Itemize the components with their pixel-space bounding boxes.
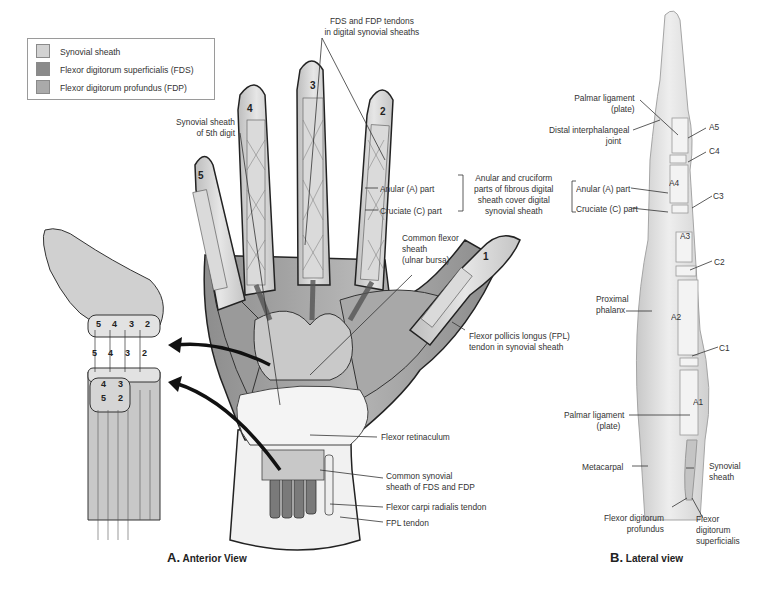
label-line: joint	[549, 135, 621, 146]
legend: Synovial sheath Flexor digitorum superfi…	[27, 38, 215, 100]
label-metacarpal: Metacarpal	[582, 461, 623, 472]
label-line: of 5th digit	[175, 127, 235, 138]
pulley-c4: C4	[709, 145, 720, 156]
xsec-mid-3: 3	[125, 348, 130, 358]
xsec-mid-2: 2	[142, 348, 147, 358]
label-common-synovial-sheath: Common synovial sheath of FDS and FDP	[386, 470, 475, 492]
legend-label: Flexor digitorum superficialis (FDS)	[60, 64, 194, 75]
label-line: synovial sheath	[474, 205, 553, 216]
legend-item-synovial-sheath: Synovial sheath	[36, 44, 127, 58]
label-palmar-ligament-top: Palmar ligament (plate)	[573, 92, 635, 114]
label-common-flexor-sheath: Common flexor sheath (ulnar bursa)	[402, 232, 459, 265]
label-line: Proximal	[596, 293, 622, 304]
digit-number-4: 4	[247, 103, 253, 114]
label-line: Common synovial	[386, 470, 475, 481]
lateral-finger	[636, 11, 709, 520]
caption-letter: B.	[610, 550, 623, 565]
fdp-swatch	[36, 80, 50, 94]
xsec-top-5: 5	[96, 319, 101, 329]
label-proximal-phalanx: Proximal phalanx	[596, 293, 622, 315]
xsec-mid-5: 5	[92, 348, 97, 358]
label-line: sheath	[402, 243, 459, 254]
label-line: Flexor pollicis longus (FPL)	[469, 330, 570, 341]
xsec-top-3: 3	[129, 319, 134, 329]
label-line: Synovial sheath	[175, 116, 235, 127]
caption-text: Lateral view	[626, 553, 683, 564]
pulley-a2: A2	[671, 311, 681, 322]
digit-number-3: 3	[310, 80, 316, 91]
label-line: Palmar ligament	[573, 92, 635, 103]
label-cruciate-part: Cruciate (C) part	[380, 205, 442, 216]
pulley-a3: A3	[680, 230, 690, 241]
digit-number-1: 1	[483, 251, 489, 262]
label-fds-fdp-tendons: FDS and FDP tendons in digital synovial …	[324, 15, 419, 37]
label-anular-part: Anular (A) part	[380, 183, 434, 194]
label-line: phalanx	[596, 304, 622, 315]
label-synovial-sheath-5th: Synovial sheath of 5th digit	[175, 116, 235, 138]
pulley-c3: C3	[713, 190, 724, 201]
caption-text: Anterior View	[182, 553, 246, 564]
digit-number-5: 5	[198, 170, 204, 181]
label-line: superficialis	[696, 535, 740, 546]
label-dip-joint: Distal interphalangeal joint	[549, 124, 621, 146]
xsec-top-2: 2	[145, 319, 150, 329]
label-line: (ulnar bursa)	[402, 254, 459, 265]
caption-anterior: A. Anterior View	[167, 550, 247, 565]
label-line: parts of fibrous digital	[474, 183, 553, 194]
label-line: Synovial	[709, 460, 741, 471]
label-line: sheath	[709, 471, 741, 482]
label-palmar-ligament-bottom: Palmar ligament (plate)	[564, 409, 620, 431]
label-line: Palmar ligament	[564, 409, 620, 420]
legend-item-fdp: Flexor digitorum profundus (FDP)	[36, 80, 201, 94]
label-fcr-tendon: Flexor carpi radialis tendon	[386, 501, 486, 512]
pulley-c2: C2	[714, 256, 725, 267]
label-line: (plate)	[564, 420, 620, 431]
fds-swatch	[36, 62, 50, 76]
label-fdp-lateral: Flexor digitorum profundus	[597, 512, 664, 534]
label-line: FDS and FDP tendons	[324, 15, 419, 26]
xsec-bottom-5: 5	[101, 393, 106, 403]
synovial-sheath-swatch	[36, 44, 50, 58]
label-line: sheath of FDS and FDP	[386, 481, 475, 492]
label-synovial-sheath-lateral: Synovial sheath	[709, 460, 741, 482]
legend-item-fds: Flexor digitorum superficialis (FDS)	[36, 62, 208, 76]
label-line: Anular and cruciform	[474, 172, 553, 183]
label-line: digitorum	[696, 524, 740, 535]
label-fpl-synovial: Flexor pollicis longus (FPL) tendon in s…	[469, 330, 570, 352]
label-line: Flexor digitorum	[597, 512, 664, 523]
label-line: Distal interphalangeal	[549, 124, 621, 135]
digit-number-2: 2	[380, 106, 386, 117]
xsec-bottom-4: 4	[101, 379, 106, 389]
legend-label: Flexor digitorum profundus (FDP)	[60, 82, 187, 93]
label-line: profundus	[597, 523, 664, 534]
label-line: in digital synovial sheaths	[324, 26, 419, 37]
pulley-a5: A5	[709, 121, 719, 132]
label-lateral-cruciate-part: Cruciate (C) part	[576, 203, 638, 214]
label-line: Common flexor	[402, 232, 459, 243]
label-flexor-retinaculum: Flexor retinaculum	[381, 431, 450, 442]
caption-letter: A.	[167, 550, 180, 565]
pulley-a1: A1	[693, 396, 703, 407]
label-fpl-tendon: FPL tendon	[386, 517, 429, 528]
label-fds-lateral: Flexor digitorum superficialis	[696, 513, 740, 546]
label-fibrous-sheath: Anular and cruciform parts of fibrous di…	[474, 172, 553, 216]
xsec-bottom-2: 2	[118, 393, 123, 403]
label-line: sheath cover digital	[474, 194, 553, 205]
xsec-bottom-3: 3	[118, 379, 123, 389]
label-lateral-anular-part: Anular (A) part	[576, 183, 630, 194]
label-line: tendon in synovial sheath	[469, 341, 570, 352]
xsec-mid-4: 4	[108, 348, 113, 358]
xsec-top-4: 4	[112, 319, 117, 329]
pulley-a4: A4	[669, 177, 679, 188]
label-line: Flexor	[696, 513, 740, 524]
legend-label: Synovial sheath	[60, 46, 120, 57]
pulley-c1: C1	[719, 342, 730, 353]
caption-lateral: B. Lateral view	[610, 550, 683, 565]
label-line: (plate)	[573, 103, 635, 114]
